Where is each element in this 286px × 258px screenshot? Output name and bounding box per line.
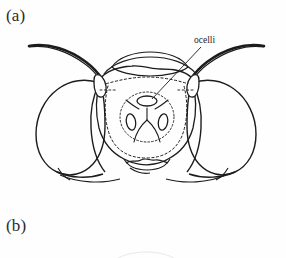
- left-antenna: [29, 45, 103, 81]
- left-lateral-ocellus: [125, 113, 137, 131]
- right-antenna: [190, 45, 264, 81]
- insect-head-illustration: ocelli: [0, 0, 286, 258]
- panel-b-label: (b): [6, 216, 26, 236]
- right-compound-eye: [187, 80, 256, 177]
- left-antennal-scape: [94, 75, 106, 98]
- panel-b-illustration-cropped: [0, 240, 286, 258]
- right-lateral-ocellus: [157, 113, 169, 131]
- ocelli-label: ocelli: [194, 35, 215, 45]
- figure-root: (a): [0, 0, 286, 258]
- clypeus-and-mandibles: [124, 159, 170, 173]
- right-antennal-scape: [187, 75, 199, 98]
- head-capsule-outline: [96, 66, 195, 165]
- left-compound-eye: [36, 80, 105, 177]
